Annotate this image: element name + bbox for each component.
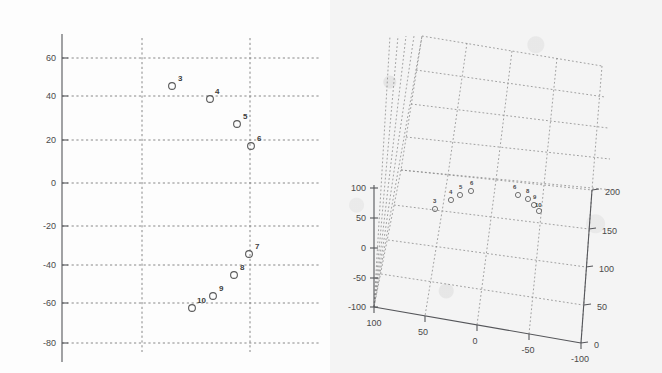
- figure-container: 60 40 20 0 -20 -40 -60 -80 3 4 5: [0, 0, 662, 373]
- right-3d-scatter-panel: 100 50 0 -50 -100 100 50 0 -50 -100: [330, 0, 662, 373]
- x-tick-label-0: 0: [472, 336, 477, 346]
- z-tick-label-0: 0: [361, 243, 366, 253]
- data-point-label: 10: [197, 296, 206, 305]
- data-point-8[interactable]: 8: [231, 263, 245, 278]
- y-tick-label-200: 200: [605, 187, 620, 197]
- x-tick-label-neg100: -100: [571, 354, 589, 364]
- y-tick-label-20: 20: [46, 135, 56, 145]
- data-point-label: 3: [433, 198, 437, 204]
- y-tick-label-150: 150: [602, 226, 617, 236]
- data-point-3d-6[interactable]: 6: [468, 180, 474, 194]
- y-gridlines: [62, 58, 320, 343]
- data-point-3d-10[interactable]: 10: [535, 202, 542, 214]
- z-tick-label-50: 50: [356, 213, 366, 223]
- z-tick-label-100: 100: [351, 183, 366, 193]
- data-point-4[interactable]: 4: [207, 87, 220, 102]
- data-point-3d-6b[interactable]: 6: [513, 184, 521, 198]
- data-point-3d-3[interactable]: 3: [432, 198, 437, 212]
- y-tick-label-100: 100: [599, 264, 614, 274]
- data-point-label: 5: [459, 184, 463, 190]
- data-point-5[interactable]: 5: [234, 112, 248, 127]
- data-point-label: 4: [449, 189, 453, 195]
- data-point-label: 6: [470, 180, 474, 186]
- data-point-3d-4[interactable]: 4: [448, 189, 453, 203]
- left-wall-gridlines: [374, 36, 422, 307]
- y-tick-label-50: 50: [597, 302, 607, 312]
- left-2d-scatter-svg: 60 40 20 0 -20 -40 -60 -80 3 4 5: [0, 0, 332, 373]
- data-point-label: 4: [215, 87, 220, 96]
- data-point-label: 6: [257, 134, 262, 143]
- data-point-label: 3: [178, 74, 183, 83]
- y-tick-marks: [62, 58, 68, 343]
- data-point-3d-8[interactable]: 8: [525, 188, 530, 202]
- data-point-3[interactable]: 3: [169, 74, 183, 89]
- data-point-label: 6: [513, 184, 517, 190]
- data-point-label: 7: [255, 242, 260, 251]
- data-point-label: 9: [219, 284, 224, 293]
- y-tick-label-0: 0: [594, 340, 599, 350]
- z-tick-label-neg100: -100: [348, 302, 366, 312]
- z-tick-label-neg50: -50: [353, 273, 366, 283]
- back-wall-gridlines: [401, 36, 613, 190]
- right-3d-scatter-svg: 100 50 0 -50 -100 100 50 0 -50 -100: [330, 0, 662, 373]
- data-point-7[interactable]: 7: [246, 242, 260, 257]
- x-tick-label-50: 50: [418, 327, 428, 337]
- x-tick-label-neg50: -50: [521, 345, 534, 355]
- y-tick-label-60: 60: [46, 53, 56, 63]
- data-point-6[interactable]: 6: [248, 134, 262, 149]
- data-point-label: 8: [240, 263, 245, 272]
- x-tick-label-100: 100: [366, 318, 381, 328]
- data-point-9[interactable]: 9: [210, 284, 224, 299]
- data-point-label: 9: [533, 194, 537, 200]
- data-point-10[interactable]: 10: [189, 296, 207, 311]
- x-gridlines: [142, 38, 250, 352]
- data-point-label: 10: [535, 202, 542, 208]
- y-tick-label-neg40: -40: [43, 260, 56, 270]
- data-point-label: 5: [243, 112, 248, 121]
- data-points-2d: 3 4 5 6 7: [169, 74, 262, 311]
- y-tick-label-neg80: -80: [43, 338, 56, 348]
- y-tick-label-40: 40: [46, 91, 56, 101]
- data-point-label: 8: [526, 188, 530, 194]
- y-tick-label-0: 0: [51, 178, 56, 188]
- left-2d-scatter-panel: 60 40 20 0 -20 -40 -60 -80 3 4 5: [0, 0, 332, 373]
- floor-gridlines: [374, 170, 592, 343]
- data-point-3d-5[interactable]: 5: [457, 184, 463, 198]
- y-tick-label-neg60: -60: [43, 298, 56, 308]
- data-points-3d: 3 4 5 6 6: [432, 180, 542, 214]
- y-tick-label-neg20: -20: [43, 221, 56, 231]
